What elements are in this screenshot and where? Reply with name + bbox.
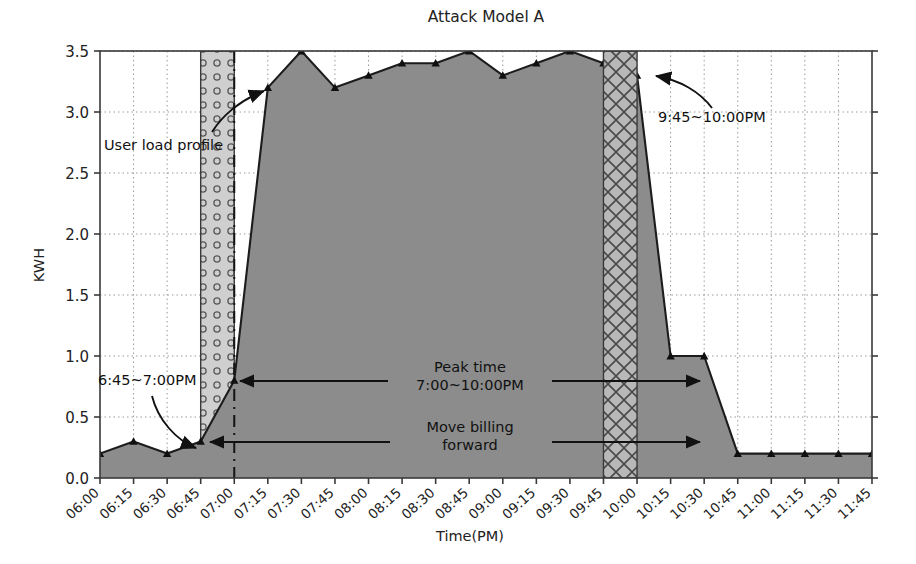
y-tick-label: 0.0	[65, 470, 89, 488]
y-tick-label: 1.0	[65, 348, 89, 366]
y-tick-label: 0.5	[65, 409, 89, 427]
y-tick-label: 2.5	[65, 165, 89, 183]
move-billing-label: Move billing	[426, 419, 513, 435]
shift-window-label: 6:45~7:00PM	[98, 372, 197, 388]
y-tick-label: 3.5	[65, 43, 89, 61]
late-window-label: 9:45~10:00PM	[658, 109, 766, 125]
x-axis-label: Time(PM)	[435, 528, 504, 544]
crosshatch-region	[603, 51, 637, 478]
y-tick-label: 2.0	[65, 226, 89, 244]
peak-time-label: Peak time	[434, 359, 506, 375]
crosshatch-overlay	[603, 51, 637, 478]
y-tick-label: 3.0	[65, 104, 89, 122]
chart-title: Attack Model A	[428, 8, 545, 26]
chart-figure: Attack Model A 0.00.51.01.52.02.53.03.5 …	[0, 0, 916, 564]
move-billing-label-2: forward	[442, 437, 498, 453]
attack-model-a-chart: Attack Model A 0.00.51.01.52.02.53.03.5 …	[0, 0, 916, 564]
y-axis-label: KWH	[31, 248, 47, 282]
peak-time-range-label: 7:00~10:00PM	[416, 377, 524, 393]
user-load-profile-label: User load profile	[104, 137, 223, 153]
y-tick-label: 1.5	[65, 287, 89, 305]
